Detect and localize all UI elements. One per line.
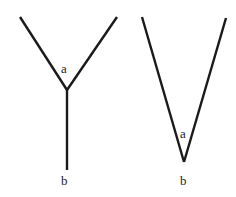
v-label-b: b	[180, 173, 187, 188]
v-label-a: a	[180, 126, 186, 141]
diagram-canvas: a b a b	[0, 0, 236, 197]
y-shape-figure: a b	[20, 17, 117, 188]
y-right-arm	[67, 17, 117, 90]
y-left-arm	[20, 17, 67, 90]
v-shape-figure: a b	[142, 17, 226, 188]
y-label-b: b	[61, 173, 68, 188]
v-left-arm	[142, 17, 184, 162]
y-label-a: a	[61, 61, 67, 76]
v-right-arm	[184, 18, 226, 162]
